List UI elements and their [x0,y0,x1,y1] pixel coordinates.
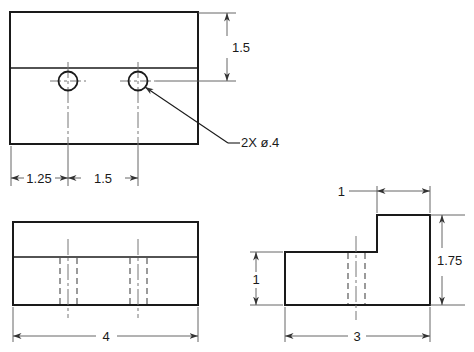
dim-label-hole-spacing: 1.5 [94,171,112,186]
drawing-canvas: 1.5 1.25 1.5 2X ø.4 [0,0,474,352]
top-view: 1.5 1.25 1.5 2X ø.4 [10,12,279,186]
drawing-sheet: 1.5 1.25 1.5 2X ø.4 [0,0,474,352]
dim-label-side-low-height: 1 [252,272,259,287]
dim-label-front-view-width: 4 [102,329,109,344]
front-view-outline [13,222,198,305]
hole-callout-leader [145,87,228,143]
top-view-outline [10,12,198,144]
dim-label-side-total-height: 1.75 [437,253,462,268]
dim-label-side-view-width: 3 [353,329,360,344]
side-view-outline [285,215,430,305]
right-side-view: 1 1 1.75 3 [250,184,465,344]
dim-label-hole1-offset: 1.25 [26,171,51,186]
dim-label-top-view-vertical: 1.5 [232,40,250,55]
dim-label-side-step-width: 1 [338,184,345,199]
hole-callout-label: 2X ø.4 [241,135,279,150]
front-view: 4 [13,222,198,344]
